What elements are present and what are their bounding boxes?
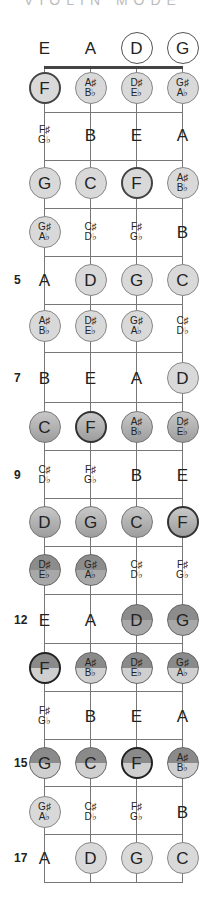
note-marker: C (121, 506, 153, 538)
note-label: F (177, 514, 187, 531)
note-marker: A♯B♭ (29, 310, 61, 342)
fret-line (44, 546, 183, 547)
note-label: E (39, 612, 50, 629)
note-flat-label: B♭ (39, 326, 51, 336)
note-label: G (38, 175, 51, 192)
note-label: B (85, 127, 96, 144)
note-label: A (177, 708, 188, 725)
note-flat-label: E♭ (177, 427, 189, 437)
note-label: C (176, 272, 188, 289)
note-label: E (39, 40, 50, 57)
note-marker: F (121, 167, 153, 199)
note-flat-label: E♭ (131, 88, 143, 98)
note-marker: C♯D♭ (121, 554, 153, 586)
note-marker: F (121, 747, 153, 779)
note-flat-label: B♭ (85, 88, 97, 98)
fret-line (44, 208, 183, 209)
note-label: E (131, 708, 142, 725)
note-marker: B (75, 700, 107, 732)
note-label: B (85, 708, 96, 725)
note-marker: G♯A♭ (29, 216, 61, 248)
note-flat-label: G♭ (176, 570, 189, 580)
note-marker: F (29, 72, 61, 104)
fingerboard: EADGFA♯B♭D♯E♭G♯A♭F♯G♭BEAGCFA♯B♭G♯A♭C♯D♭F… (0, 0, 206, 913)
note-marker: D (167, 362, 199, 394)
note-marker: A (29, 264, 61, 296)
fret-number: 9 (14, 468, 21, 482)
note-marker: F (75, 411, 107, 443)
note-marker: G (29, 747, 61, 779)
note-marker: F (167, 506, 199, 538)
note-label: D (84, 850, 96, 867)
fret-line (44, 256, 183, 257)
note-marker: D (121, 604, 153, 636)
note-label: C (38, 419, 50, 436)
note-flat-label: A♭ (131, 326, 143, 336)
note-marker: C♯D♭ (167, 310, 199, 342)
note-flat-label: G♭ (130, 232, 143, 242)
fret-line (44, 402, 183, 403)
note-label: F (85, 419, 95, 436)
note-marker: A♯B♭ (75, 652, 107, 684)
note-marker: G (121, 264, 153, 296)
note-label: C (84, 755, 96, 772)
note-marker: A (75, 32, 107, 64)
note-flat-label: E♭ (85, 326, 97, 336)
note-marker: B (167, 216, 199, 248)
note-marker: D♯E♭ (29, 554, 61, 586)
note-marker: B (75, 119, 107, 151)
fret-line (44, 691, 183, 692)
note-label: G (84, 514, 97, 531)
note-marker: D♯E♭ (121, 72, 153, 104)
note-label: G (176, 612, 189, 629)
fret-line (44, 304, 183, 305)
note-label: B (177, 804, 188, 821)
note-label: A (177, 127, 188, 144)
note-marker: D (29, 506, 61, 538)
fret-line (44, 498, 183, 499)
fret-line (44, 594, 183, 595)
note-flat-label: A♭ (85, 570, 97, 580)
fret-number: 15 (14, 756, 27, 770)
note-marker: G (29, 167, 61, 199)
note-label: A (39, 272, 50, 289)
note-label: F (39, 80, 49, 97)
fret-line (44, 450, 183, 451)
fret-number: 12 (14, 613, 27, 627)
note-marker: E (121, 119, 153, 151)
note-marker: G♯A♭ (167, 72, 199, 104)
note-marker: F♯G♭ (121, 796, 153, 828)
note-flat-label: G♭ (130, 812, 143, 822)
note-marker: C (167, 842, 199, 874)
fret-line (44, 643, 183, 644)
note-marker: A (167, 119, 199, 151)
note-marker: B (121, 459, 153, 491)
fret-line (44, 352, 183, 353)
note-marker: C (167, 264, 199, 296)
note-marker: A (29, 842, 61, 874)
note-marker: A♯B♭ (121, 411, 153, 443)
note-label: A (39, 850, 50, 867)
note-label: A (131, 370, 142, 387)
note-label: B (177, 224, 188, 241)
note-marker: A♯B♭ (167, 747, 199, 779)
note-flat-label: E♭ (131, 668, 143, 678)
note-marker: G♯A♭ (121, 310, 153, 342)
note-marker: G♯A♭ (75, 554, 107, 586)
note-marker: G (167, 32, 199, 64)
note-flat-label: D♭ (84, 812, 96, 822)
note-marker: F♯G♭ (121, 216, 153, 248)
fret-number: 5 (14, 273, 21, 287)
note-marker: D♯E♭ (75, 310, 107, 342)
fret-number: 7 (14, 371, 21, 385)
note-label: F (131, 175, 141, 192)
fret-line (44, 739, 183, 740)
note-marker: C♯D♭ (29, 459, 61, 491)
note-marker: D (121, 32, 153, 64)
note-marker: E (29, 604, 61, 636)
note-flat-label: D♭ (38, 475, 50, 485)
note-label: F (39, 660, 49, 677)
note-marker: C♯D♭ (75, 796, 107, 828)
fret-number: 17 (14, 851, 27, 865)
fret-line (44, 882, 183, 883)
